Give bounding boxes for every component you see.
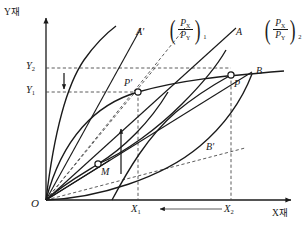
curves [46,26,284,200]
curve-label-B-prime: B' [206,142,214,152]
origin-label: O [31,198,39,209]
marker-P-prime [135,89,141,95]
curve-inner-right [112,75,231,200]
y1-tick-label: Y1 [26,85,35,96]
guide-lines [46,28,245,200]
numerator-1: PX [179,18,191,29]
curve-label-B: B [256,66,262,76]
denominator-1: PY [179,30,191,41]
x1-sub: 1 [137,208,140,215]
fraction-2: PX PY [272,18,288,41]
x-axis-label: X재 [272,209,288,219]
point-label-P-prime: P' [124,78,132,88]
ray-A [46,28,236,200]
y-axis-label: Y재 [4,8,20,18]
point-label-P: P [234,79,240,89]
denominator-2: PY [274,30,286,41]
y2-sub: 2 [32,65,35,72]
x1-tick-label: X1 [131,204,141,215]
y2-tick-label: Y2 [26,61,35,72]
price-ratio-2: ( PX PY ) 2 [263,18,301,41]
x2-sub: 2 [230,208,233,215]
paren-open-2: ( [265,19,271,41]
price-rays [46,28,252,200]
ratio-index-1: 1 [203,33,206,41]
curve-label-A: A [236,27,242,37]
numerator-2: PX [274,18,286,29]
price-ratio-1: ( PX PY ) 1 [168,18,206,41]
annotation-arrows [64,73,222,209]
paren-close-2: ) [290,19,296,41]
diagram-canvas [0,0,302,235]
y1-sub: 1 [32,89,35,96]
fraction-1: PX PY [177,18,193,41]
x2-tick-label: X2 [224,204,234,215]
paren-open-1: ( [170,19,176,41]
economics-diagram: Y재 X재 O Y2 Y1 X1 X2 P P' M A A' B B' ( P… [0,0,302,235]
point-label-M: M [101,167,109,177]
curve-label-A-prime: A' [136,27,144,37]
paren-close-1: ) [195,19,201,41]
ratio-index-2: 2 [298,33,301,41]
bprime-ray-dashed [46,148,245,200]
aprime-ray-dashed [46,28,185,200]
